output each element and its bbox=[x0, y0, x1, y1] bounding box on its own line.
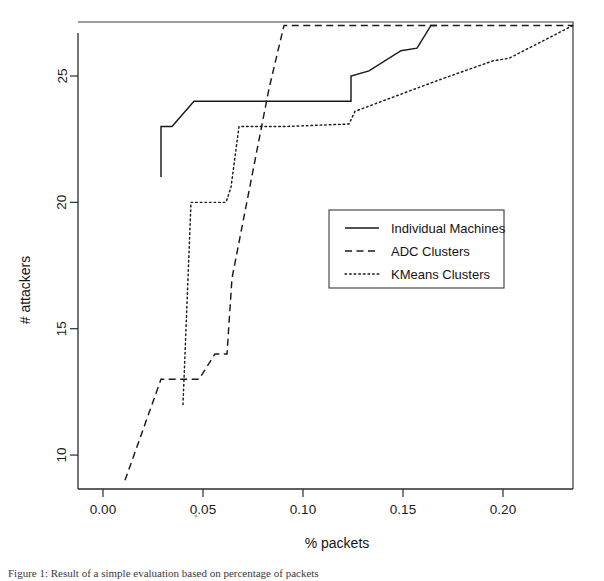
x-tick-label: 0.20 bbox=[490, 502, 516, 517]
y-tick-label: 10 bbox=[55, 448, 70, 463]
y-tick-group: 10152025 bbox=[55, 68, 79, 462]
x-axis: 0.000.050.100.150.20 % packets bbox=[78, 489, 573, 551]
legend-label: Individual Machines bbox=[391, 221, 506, 236]
x-tick-label: 0.05 bbox=[190, 502, 216, 517]
legend-label: ADC Clusters bbox=[391, 244, 470, 259]
y-tick-label: 25 bbox=[55, 68, 70, 83]
figure-container: 10152025 # attackers 0.000.050.100.150.2… bbox=[0, 0, 604, 581]
figure-caption: Figure 1: Result of a simple evaluation … bbox=[8, 567, 319, 579]
y-tick-label: 20 bbox=[55, 195, 70, 210]
x-tick-group: 0.000.050.100.150.20 bbox=[90, 489, 516, 517]
chart-canvas: 10152025 # attackers 0.000.050.100.150.2… bbox=[0, 0, 604, 581]
y-axis-title: # attackers bbox=[17, 256, 33, 324]
legend-label: KMeans Clusters bbox=[391, 267, 490, 282]
series-line-individual-machines bbox=[161, 25, 437, 177]
chart-legend: Individual MachinesADC ClustersKMeans Cl… bbox=[329, 210, 506, 288]
y-axis: 10152025 # attackers bbox=[17, 33, 78, 489]
y-tick-label: 15 bbox=[55, 321, 70, 336]
x-tick-label: 0.10 bbox=[290, 502, 316, 517]
x-tick-label: 0.00 bbox=[90, 502, 116, 517]
x-axis-title: % packets bbox=[305, 535, 370, 551]
scan-speck bbox=[194, 514, 197, 517]
x-tick-label: 0.15 bbox=[390, 502, 416, 517]
